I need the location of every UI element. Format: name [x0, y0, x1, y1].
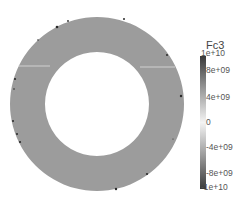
colorbar-tick: 0: [206, 117, 211, 127]
colorbar-tick: 8e+09: [206, 65, 230, 75]
annulus: [10, 17, 184, 191]
colorbar-tick: -4e+09: [206, 142, 233, 152]
colorbar-tick: 4e+09: [206, 92, 230, 102]
colorbar-tick: 1e+10: [201, 48, 225, 58]
colorbar-tick: -8e+09: [206, 168, 233, 178]
colorbar-tick: -1e+10: [201, 182, 228, 192]
